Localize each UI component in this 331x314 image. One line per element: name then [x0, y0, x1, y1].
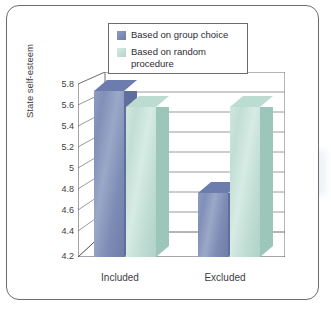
bar-side-face: [156, 107, 169, 257]
x-category-label-excluded: Excluded: [185, 272, 265, 283]
bar-front-face: [230, 107, 260, 257]
legend-swatch-random-procedure: [117, 48, 126, 57]
y-tick-label: 5.8: [61, 80, 74, 89]
bar-front-face: [126, 107, 156, 257]
bar-front-face: [94, 91, 124, 257]
y-tick-label: 4.8: [61, 185, 74, 194]
legend-label-random-procedure-line2: procedure: [131, 58, 174, 69]
plot-area: [78, 72, 285, 257]
x-category-label-included: Included: [80, 272, 160, 283]
chart-legend: Based on group choice Based on random pr…: [108, 23, 248, 74]
bar-side-face: [260, 107, 273, 257]
bar-front-face: [198, 193, 228, 257]
y-axis-title: State self-esteem: [24, 44, 35, 118]
legend-label-group-choice: Based on group choice: [131, 29, 228, 40]
y-tick-label: 5: [69, 164, 74, 173]
legend-label-random-procedure-line1: Based on random: [131, 46, 206, 57]
y-tick-label: 4.6: [61, 206, 74, 215]
y-tick-label: 5.6: [61, 101, 74, 110]
y-axis-tick-labels: 5.8 5.6 5.4 5.2 5 4.8 4.6 4.4 4.2: [42, 72, 74, 262]
bar-excluded-group-choice: [198, 193, 228, 257]
figure-canvas: 5.8 5.6 5.4 5.2 5 4.8 4.6 4.4 4.2 State …: [0, 0, 331, 314]
y-tick-label: 5.4: [61, 122, 74, 131]
y-tick-label: 5.2: [61, 143, 74, 152]
y-tick-label: 4.2: [61, 252, 74, 261]
legend-swatch-group-choice: [117, 31, 126, 40]
bar-included-random-procedure: [126, 107, 156, 257]
bar-included-group-choice: [94, 91, 124, 257]
bar-excluded-random-procedure: [230, 107, 260, 257]
y-tick-label: 4.4: [61, 227, 74, 236]
